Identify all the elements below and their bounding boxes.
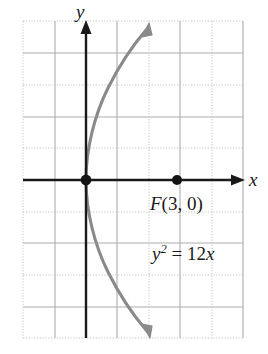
- graph-canvas: [0, 0, 268, 354]
- x-axis-label: x: [249, 170, 257, 189]
- y-axis-label: y: [76, 2, 84, 21]
- focus-label-coords: (3, 0): [162, 193, 203, 214]
- focus-point: [172, 175, 182, 185]
- y-axis-arrowhead: [81, 20, 92, 34]
- vertex-point: [81, 175, 92, 186]
- equation-variable: x: [206, 243, 214, 264]
- focus-label-prefix: F: [150, 193, 162, 214]
- equation-rest: = 12: [167, 243, 206, 264]
- parabola-figure: y x F(3, 0) y2 = 12x: [0, 0, 268, 354]
- equation-label: y2 = 12x: [152, 243, 214, 263]
- focus-label: F(3, 0): [150, 194, 203, 213]
